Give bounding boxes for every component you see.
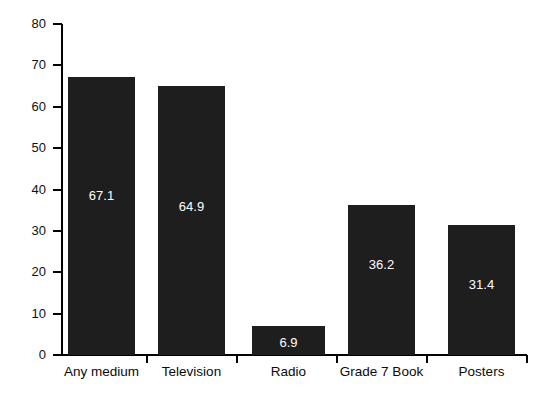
bar-value-label: 6.9	[252, 336, 325, 349]
y-axis-tick-label: 0	[0, 348, 46, 361]
y-axis-tick-label: 60	[0, 100, 46, 113]
bar-chart: 01020304050607080 67.164.96.936.231.4 An…	[0, 0, 552, 401]
bar	[348, 205, 415, 355]
y-axis-tick-label: 70	[0, 58, 46, 71]
y-axis-tick-label: 20	[0, 265, 46, 278]
y-axis-tick	[53, 313, 62, 315]
bar-value-label: 31.4	[448, 278, 515, 291]
plot-area: 01020304050607080 67.164.96.936.231.4 An…	[0, 0, 552, 401]
y-axis-tick	[53, 230, 62, 232]
x-axis-tick	[146, 355, 148, 363]
x-axis-tick	[526, 355, 528, 363]
bar-value-label: 36.2	[348, 258, 415, 271]
y-axis-tick	[53, 354, 62, 356]
bar-value-label: 67.1	[68, 189, 135, 202]
y-axis-tick	[53, 23, 62, 25]
y-axis-tick	[53, 271, 62, 273]
bar	[158, 86, 225, 355]
y-axis-tick-label: 50	[0, 141, 46, 154]
y-axis-tick	[53, 106, 62, 108]
y-axis-tick-label: 10	[0, 307, 46, 320]
y-axis-tick-label: 80	[0, 17, 46, 30]
y-axis-tick-label: 40	[0, 183, 46, 196]
x-axis-category-label: Posters	[426, 364, 537, 380]
y-axis-tick	[53, 189, 62, 191]
y-axis-tick	[53, 147, 62, 149]
y-axis-tick-label: 30	[0, 224, 46, 237]
bar-value-label: 64.9	[158, 200, 225, 213]
x-axis-category-label: Grade 7 Book	[326, 364, 437, 380]
x-axis-tick	[336, 355, 338, 363]
x-axis-tick	[426, 355, 428, 363]
x-axis-tick	[236, 355, 238, 363]
bar	[68, 77, 135, 355]
y-axis-tick	[53, 64, 62, 66]
